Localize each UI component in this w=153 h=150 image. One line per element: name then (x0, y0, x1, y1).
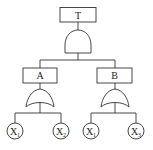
basic-event-b-2: X 3 (128, 123, 144, 139)
event-b: B (97, 68, 132, 83)
basic-event-subscript: 1 (17, 132, 20, 138)
event-a-label: A (36, 70, 44, 81)
fault-tree-diagram: T A B X 1 X 2 X 1 (0, 0, 153, 150)
event-b-label: B (111, 70, 118, 81)
basic-event-b-1: X 1 (83, 123, 99, 139)
top-event-t: T (60, 8, 96, 23)
and-gate-icon (65, 30, 91, 53)
basic-event-subscript: 1 (93, 132, 96, 138)
basic-event-subscript: 2 (63, 132, 66, 138)
basic-event-a-1: X 1 (7, 123, 23, 139)
top-event-label: T (75, 10, 81, 21)
basic-event-a-2: X 2 (53, 123, 69, 139)
event-a: A (23, 68, 57, 83)
basic-event-subscript: 3 (138, 132, 141, 138)
